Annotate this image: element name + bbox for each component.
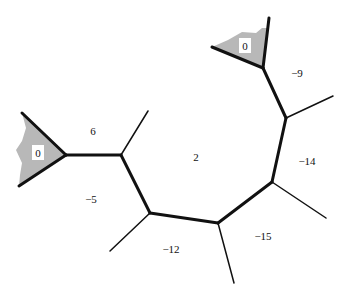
edge-D-E	[218, 182, 272, 223]
region-label-rm15: −15	[254, 230, 272, 242]
edge-F-G	[263, 68, 286, 118]
ray-2	[121, 111, 148, 155]
tropical-curve-diagram: 006−52−12−15−14−9	[0, 0, 350, 303]
ray-4	[218, 223, 234, 283]
region-label-rm9: −9	[291, 67, 303, 79]
edge-B-C	[121, 155, 150, 213]
region-label-r2: 2	[193, 151, 199, 163]
region-label-rm12: −12	[162, 243, 179, 255]
region-label-rm5: −5	[85, 193, 97, 205]
region-labels: 006−52−12−15−14−9	[32, 38, 316, 255]
ray-3	[110, 213, 150, 251]
ray-6	[286, 96, 333, 118]
region-label-left-cone: 0	[35, 147, 41, 159]
region-label-rm14: −14	[298, 155, 316, 167]
region-label-top-cone: 0	[242, 40, 248, 52]
ray-5	[272, 182, 326, 218]
edge-C-D	[150, 213, 218, 223]
region-label-r6: 6	[90, 125, 96, 137]
edge-E-F	[272, 118, 286, 182]
